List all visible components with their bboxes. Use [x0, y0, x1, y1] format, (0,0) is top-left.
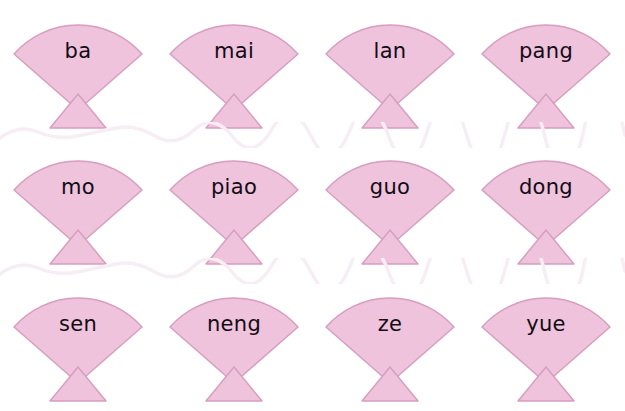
fan-bowtie-shape — [468, 14, 624, 132]
fan-card[interactable]: mo — [0, 150, 156, 268]
fan-bowtie-shape — [312, 14, 468, 132]
fan-bowtie-shape — [468, 287, 624, 405]
fan-card[interactable]: yue — [468, 287, 624, 405]
fan-row-1: ba mai lan pang — [0, 14, 625, 132]
fan-card[interactable]: pang — [468, 14, 624, 132]
fan-card[interactable]: lan — [312, 14, 468, 132]
fan-bowtie-shape — [156, 14, 312, 132]
fan-bowtie-shape — [312, 287, 468, 405]
fan-bowtie-shape — [312, 150, 468, 268]
fan-card-board: ba mai lan pang — [0, 0, 625, 411]
fan-card[interactable]: guo — [312, 150, 468, 268]
fan-bowtie-shape — [0, 150, 156, 268]
fan-card[interactable]: sen — [0, 287, 156, 405]
fan-card[interactable]: ba — [0, 14, 156, 132]
fan-card[interactable]: dong — [468, 150, 624, 268]
fan-bowtie-shape — [156, 150, 312, 268]
fan-card[interactable]: piao — [156, 150, 312, 268]
fan-bowtie-shape — [0, 287, 156, 405]
fan-bowtie-shape — [156, 287, 312, 405]
fan-row-2: mo piao guo dong — [0, 150, 625, 268]
fan-card[interactable]: mai — [156, 14, 312, 132]
fan-bowtie-shape — [0, 14, 156, 132]
fan-card[interactable]: ze — [312, 287, 468, 405]
fan-card[interactable]: neng — [156, 287, 312, 405]
fan-bowtie-shape — [468, 150, 624, 268]
fan-row-3: sen neng ze yue — [0, 287, 625, 405]
